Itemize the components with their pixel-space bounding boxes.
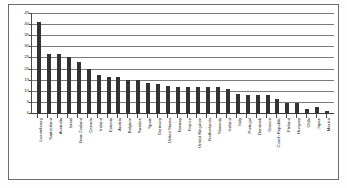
plot-area <box>31 13 334 114</box>
bar <box>166 86 170 113</box>
x-label-slot: France <box>182 118 192 176</box>
bar-slot <box>203 13 213 113</box>
bar-slot <box>322 13 332 113</box>
y-axis-tick-label: 35 <box>13 33 29 37</box>
x-label-slot: Slovenia <box>212 118 222 176</box>
y-axis-tick-label: 10 <box>13 89 29 93</box>
x-label-slot: Estonia <box>103 118 113 176</box>
y-axis-tick-label: 20 <box>13 66 29 70</box>
bar <box>236 94 240 113</box>
x-label-slot: Portugal <box>242 118 252 176</box>
bar-slot <box>143 13 153 113</box>
x-label-slot: Israel <box>63 118 73 176</box>
x-label-slot: Japan <box>311 118 321 176</box>
bar <box>126 80 130 113</box>
bar <box>315 107 319 113</box>
bar-slot <box>213 13 223 113</box>
x-label-slot: New Zealand <box>73 118 83 176</box>
x-label-slot: Iceland <box>222 118 232 176</box>
y-axis-tick-label: 0 <box>13 111 29 115</box>
bar <box>206 87 210 113</box>
x-label-slot: United Kingdom <box>192 118 202 176</box>
y-axis-tick-label: 40 <box>13 22 29 26</box>
bar-slot <box>74 13 84 113</box>
y-axis-tick-label: 5 <box>13 100 29 104</box>
x-label-slot: Canada <box>83 118 93 176</box>
bar-slot <box>173 13 183 113</box>
bar-slot <box>282 13 292 113</box>
x-label-slot: Norway <box>172 118 182 176</box>
bar-slot <box>84 13 94 113</box>
x-label-slot: United States <box>162 118 172 176</box>
y-axis-tick-label: 30 <box>13 44 29 48</box>
bar <box>136 80 140 113</box>
y-axis-labels: 051015202530354045 <box>13 13 29 113</box>
bar <box>305 109 309 113</box>
bar <box>266 95 270 113</box>
bar <box>216 87 220 113</box>
bar <box>97 75 101 113</box>
bar-slot <box>133 13 143 113</box>
bar <box>226 89 230 113</box>
bar <box>57 54 61 113</box>
bar <box>246 95 250 113</box>
bar <box>176 87 180 113</box>
x-label-slot: Chile <box>301 118 311 176</box>
bar-slot <box>34 13 44 113</box>
x-axis-labels: LuxembourgSwitzerlandAustraliaIsraelNew … <box>31 118 333 176</box>
bar-slot <box>273 13 283 113</box>
bar <box>47 54 51 113</box>
bar <box>67 57 71 113</box>
x-label-slot: Luxembourg <box>33 118 43 176</box>
x-label-slot: Czech Republic <box>272 118 282 176</box>
x-label-slot: Spain <box>142 118 152 176</box>
bar <box>116 77 120 113</box>
bar <box>146 83 150 113</box>
plot-wrapper: 051015202530354045 LuxembourgSwitzerland… <box>9 5 338 179</box>
bar <box>186 87 190 113</box>
bar-slot <box>123 13 133 113</box>
bar <box>275 99 279 113</box>
y-axis-tick-label: 15 <box>13 77 29 81</box>
bar-slot <box>163 13 173 113</box>
y-axis-tick-label: 25 <box>13 55 29 59</box>
bar <box>285 103 289 113</box>
bar <box>256 95 260 113</box>
bar-slot <box>253 13 263 113</box>
bar <box>325 111 329 113</box>
x-label-slot: Switzerland <box>43 118 53 176</box>
x-label-slot: Netherlands <box>202 118 212 176</box>
bar <box>107 77 111 113</box>
x-label-slot: Italy <box>232 118 242 176</box>
chart-page: 051015202530354045 LuxembourgSwitzerland… <box>0 0 347 188</box>
bar-slot <box>183 13 193 113</box>
bar-slot <box>94 13 104 113</box>
bar-slot <box>44 13 54 113</box>
bar-slot <box>302 13 312 113</box>
x-label-slot: Ireland <box>93 118 103 176</box>
x-label-slot: Austria <box>113 118 123 176</box>
bar <box>295 103 299 113</box>
x-label-slot: Finland <box>281 118 291 176</box>
bar <box>196 87 200 113</box>
bar-slot <box>312 13 322 113</box>
bar-slot <box>263 13 273 113</box>
x-label-slot: Hungary <box>291 118 301 176</box>
x-label-slot: Denmark <box>252 118 262 176</box>
bar-slot <box>54 13 64 113</box>
bar-slot <box>292 13 302 113</box>
bar <box>37 22 41 113</box>
bar-slot <box>193 13 203 113</box>
x-label-slot: Australia <box>53 118 63 176</box>
bar <box>87 69 91 113</box>
x-axis-category-label: Mexico <box>327 118 331 131</box>
bar-slot <box>243 13 253 113</box>
y-axis-tick-label: 45 <box>13 11 29 15</box>
bar-slot <box>64 13 74 113</box>
bar-series <box>32 13 334 113</box>
bar-slot <box>114 13 124 113</box>
bar-slot <box>233 13 243 113</box>
bar <box>77 62 81 113</box>
bar <box>156 84 160 113</box>
bar-slot <box>153 13 163 113</box>
